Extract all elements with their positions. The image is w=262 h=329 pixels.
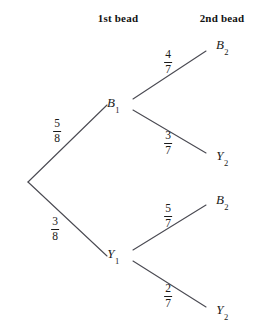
fraction-numerator: 4 [164, 49, 172, 61]
fraction-numerator: 3 [51, 216, 59, 228]
node-subscript: 1 [115, 256, 119, 266]
column-header-stage2: 2nd bead [200, 12, 245, 24]
fraction-denominator: 7 [164, 297, 172, 309]
node-letter: B [107, 95, 115, 110]
node-letter: Y [216, 148, 223, 163]
fraction-denominator: 8 [53, 132, 61, 144]
branch-line-group [28, 51, 206, 307]
fraction-numerator: 5 [53, 118, 61, 130]
node-label-y1y2: Y2 [216, 302, 227, 320]
fraction-denominator: 7 [164, 217, 172, 229]
probability-fraction-b1-b2: 47 [164, 49, 172, 75]
branch-line-root-b1 [28, 105, 107, 182]
probability-fraction-root-y1: 38 [51, 216, 59, 242]
node-label-y1b2: B2 [216, 192, 228, 210]
node-label-b1y2: Y2 [216, 148, 227, 166]
node-label-y1: Y1 [107, 246, 118, 264]
fraction-numerator: 3 [164, 130, 172, 142]
probability-fraction-root-b1: 58 [53, 118, 61, 144]
fraction-denominator: 8 [51, 230, 59, 242]
node-subscript: 2 [224, 158, 228, 168]
fraction-denominator: 7 [164, 144, 172, 156]
column-header-stage1: 1st bead [98, 12, 138, 24]
fraction-numerator: 5 [164, 203, 172, 215]
fraction-numerator: 2 [164, 283, 172, 295]
node-letter: B [216, 37, 224, 52]
probability-fraction-y1-y2: 27 [164, 283, 172, 309]
node-subscript: 1 [115, 105, 119, 115]
branch-line-root-y1 [28, 182, 107, 256]
node-letter: Y [107, 246, 114, 261]
node-letter: B [216, 192, 224, 207]
probability-fraction-y1-b2: 57 [164, 203, 172, 229]
probability-tree-diagram: 1st bead2nd bead B1Y1B2Y2B2Y2 5838473757… [0, 0, 262, 329]
node-subscript: 2 [224, 312, 228, 322]
node-label-b1b2: B2 [216, 37, 228, 55]
node-subscript: 2 [224, 202, 228, 212]
fraction-denominator: 7 [164, 63, 172, 75]
node-subscript: 2 [224, 47, 228, 57]
node-letter: Y [216, 302, 223, 317]
node-label-b1: B1 [107, 95, 119, 113]
probability-fraction-b1-y2: 37 [164, 130, 172, 156]
